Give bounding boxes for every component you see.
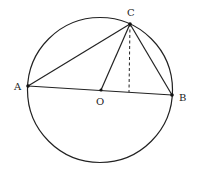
segment-oc — [101, 24, 130, 90]
point-c — [128, 22, 132, 26]
segment-ac — [28, 24, 130, 86]
point-b — [170, 93, 174, 97]
point-o — [99, 88, 102, 91]
label-c: C — [127, 7, 135, 18]
label-o: O — [96, 96, 104, 107]
segment-altitude-dashed — [129, 24, 130, 92]
label-a: A — [13, 81, 22, 92]
label-b: B — [179, 92, 186, 103]
point-a — [26, 84, 30, 88]
geometry-diagram: A B C O — [0, 0, 199, 173]
